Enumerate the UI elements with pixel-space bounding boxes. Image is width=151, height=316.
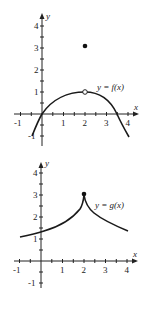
- x-tick-label: 3: [104, 118, 109, 128]
- y-tick-label: 1: [33, 234, 38, 244]
- y-axis-label: y: [44, 158, 49, 168]
- y-tick-label: 4: [34, 21, 39, 31]
- x-tick-label: -1: [13, 265, 21, 275]
- x-axis-arrow-icon: [132, 259, 138, 264]
- filled-point-icon: [83, 44, 88, 49]
- x-tick-label: 4: [126, 118, 131, 128]
- y-tick-label: 3: [33, 190, 38, 200]
- filled-point-icon: [82, 192, 87, 197]
- x-axis-arrow-icon: [133, 112, 139, 117]
- x-tick-label: 2: [83, 118, 88, 128]
- graphs-figure: -1 1 2 3 4 -1 1 2 3 4 x y y = f(x): [0, 0, 151, 316]
- y-axis-arrow-icon: [39, 162, 44, 168]
- curve-label: y = g(x): [94, 200, 124, 210]
- x-tick-label: -1: [14, 118, 22, 128]
- y-tick-label: 3: [34, 43, 39, 53]
- y-tick-label: -1: [28, 131, 36, 141]
- y-tick-label: 4: [33, 168, 38, 178]
- y-axis-label: y: [45, 11, 50, 21]
- x-axis-label: x: [133, 102, 138, 112]
- x-axis-label: x: [132, 249, 137, 259]
- graph-g: -1 1 2 3 4 -1 1 2 3 4 x y y = g(x): [13, 158, 138, 288]
- x-tick-label: 1: [60, 265, 65, 275]
- y-tick-label: 1: [34, 87, 39, 97]
- curve-label: y = f(x): [96, 82, 124, 92]
- open-point-icon: [83, 90, 88, 95]
- y-tick-label: 2: [34, 65, 39, 75]
- y-tick-label: 2: [33, 212, 38, 222]
- y-tick-label: -1: [28, 278, 36, 288]
- x-tick-label: 1: [61, 118, 66, 128]
- x-tick-label: 2: [82, 265, 87, 275]
- x-tick-label: 3: [103, 265, 108, 275]
- curve-g-left: [20, 195, 84, 237]
- x-tick-label: 4: [125, 265, 130, 275]
- graph-f: -1 1 2 3 4 -1 1 2 3 4 x y y = f(x): [14, 11, 139, 146]
- y-axis-arrow-icon: [40, 13, 45, 19]
